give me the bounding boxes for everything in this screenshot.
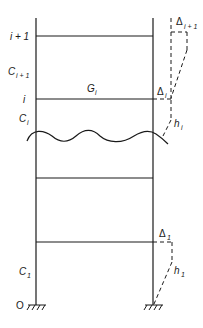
svg-text:1: 1 xyxy=(27,272,31,279)
column-label-c-1: C 1 xyxy=(19,266,31,279)
fixed-support-left xyxy=(27,305,46,310)
svg-text:G: G xyxy=(87,83,95,94)
floor-label-i: i xyxy=(23,94,26,105)
svg-text:i + 1: i + 1 xyxy=(16,72,30,79)
drift-upper-storey xyxy=(171,18,187,100)
height-label-h-i: h i xyxy=(174,118,183,131)
column-label-c-i-plus-1: C i + 1 xyxy=(8,66,30,79)
svg-text:1: 1 xyxy=(181,271,185,278)
drift-middle-storey xyxy=(153,99,171,136)
svg-text:h: h xyxy=(174,265,180,276)
break-line xyxy=(27,130,168,144)
column-label-c-i: C i xyxy=(19,113,29,126)
svg-text:h: h xyxy=(174,118,180,129)
svg-text:1: 1 xyxy=(167,234,171,241)
svg-text:i: i xyxy=(181,124,183,131)
svg-text:Δ: Δ xyxy=(159,228,166,239)
height-label-h-1: h 1 xyxy=(174,265,185,278)
svg-text:i: i xyxy=(27,119,29,126)
svg-text:i + 1: i + 1 xyxy=(184,23,198,30)
fixed-support-right xyxy=(144,305,163,310)
frame-diagram: i + 1 i C i + 1 C i C 1 G i Δ i + 1 Δ i … xyxy=(0,0,203,328)
drift-label-delta-i: Δ i xyxy=(157,86,167,99)
drift-label-delta-i-plus-1: Δ i + 1 xyxy=(176,16,198,30)
svg-text:Δ: Δ xyxy=(157,86,164,97)
svg-text:i: i xyxy=(165,92,167,99)
svg-text:Δ: Δ xyxy=(176,16,183,27)
floor-label-i-plus-1: i + 1 xyxy=(10,31,29,42)
drift-bottom-storey xyxy=(153,242,172,304)
beam-label-g-i: G i xyxy=(87,83,97,96)
svg-text:i: i xyxy=(95,89,97,96)
origin-label: O xyxy=(16,300,24,311)
svg-text:C: C xyxy=(19,266,27,277)
svg-text:C: C xyxy=(8,66,16,77)
svg-text:C: C xyxy=(19,113,27,124)
drift-label-delta-1: Δ 1 xyxy=(159,228,171,241)
